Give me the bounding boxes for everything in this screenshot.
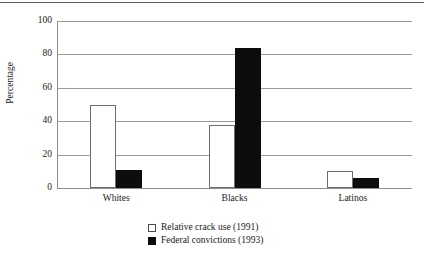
legend-item-relative-crack-use: Relative crack use (1991) [148,222,263,234]
x-axis-tick-label: Latinos [339,194,368,204]
bar [116,170,142,188]
y-axis-tick-label: 0 [47,183,52,193]
y-axis-title: Percentage [6,48,16,62]
legend: Relative crack use (1991) Federal convic… [148,222,263,248]
y-axis-tick-label: 60 [43,83,53,93]
y-axis-line [57,21,58,188]
legend-item-federal-convictions: Federal convictions (1993) [148,235,263,247]
legend-swatch-open-icon [148,224,156,232]
x-axis-tick-label: Blacks [222,194,248,204]
y-axis-tick-label: 80 [43,50,53,60]
gridline [57,188,412,189]
legend-label: Relative crack use (1991) [161,223,258,233]
gridline [57,21,412,22]
plot-area: 020406080100 [57,21,412,188]
y-axis-tick-label: 20 [43,150,53,160]
bar [209,125,235,188]
bar [235,48,261,188]
y-axis-title-text: Percentage [6,62,16,104]
y-axis-tick-label: 100 [38,16,52,26]
top-divider-rule [0,2,424,3]
x-axis-tick-label: Whites [103,194,130,204]
legend-swatch-solid-icon [148,237,156,245]
bar [327,171,353,188]
bar [90,105,116,189]
bar [353,178,379,188]
bar-chart-figure: Percentage 020406080100 WhitesBlacksLati… [0,0,424,259]
y-axis-tick-label: 40 [43,116,53,126]
legend-label: Federal convictions (1993) [161,236,263,246]
